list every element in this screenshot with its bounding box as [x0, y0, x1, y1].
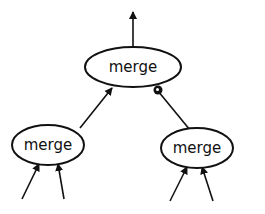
- circle-marker-highlight: [156, 88, 159, 91]
- node-left-label: merge: [24, 136, 73, 154]
- input-arrow-right-2: [202, 167, 213, 201]
- node-right-label: merge: [173, 139, 222, 157]
- edge-left-to-top: [80, 88, 112, 128]
- node-left-merge: merge: [12, 125, 84, 165]
- edge-right-to-top: [158, 91, 190, 130]
- input-arrow-right-1: [170, 167, 187, 201]
- input-arrow-left-1: [22, 164, 39, 199]
- node-top-label: merge: [109, 58, 158, 76]
- node-top-merge: merge: [85, 47, 181, 87]
- node-right-merge: merge: [161, 128, 233, 168]
- merge-tree-diagram: merge merge merge: [0, 0, 265, 214]
- input-arrow-left-2: [58, 164, 64, 199]
